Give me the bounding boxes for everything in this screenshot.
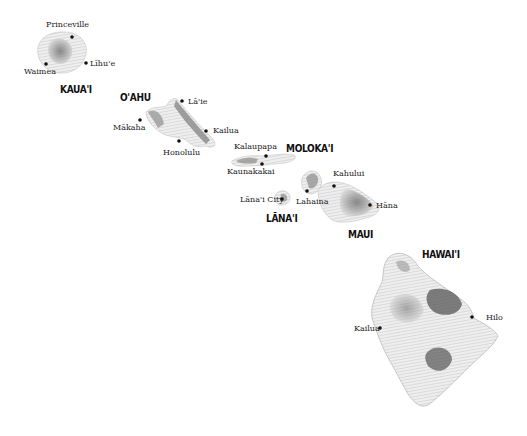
island-label-lanai: LĀNA'I — [266, 212, 298, 224]
town-dot-kalaupapa — [264, 154, 268, 158]
town-label-hilo: Hilo — [486, 313, 503, 322]
town-label-hana: Hāna — [376, 201, 398, 210]
town-dot-kahului — [332, 184, 336, 188]
town-dot-laie — [180, 99, 184, 103]
town-label-kahului: Kahului — [333, 169, 365, 178]
town-dot-hana — [368, 203, 372, 207]
town-label-lihue: Līhu'e — [90, 59, 115, 68]
town-label-makaha: Mākaha — [113, 123, 146, 132]
island-hawaii: Kailua Hilo HAWAI'I — [354, 249, 503, 406]
town-dot-lahaina — [305, 189, 309, 193]
town-label-kaunakakai: Kaunakakai — [227, 167, 275, 176]
town-label-waimea: Waimea — [24, 67, 56, 76]
island-oahu: Lā'ie Mākaha Kailua Honolulu O'AHU — [113, 92, 239, 157]
town-dot-honolulu — [177, 139, 181, 143]
town-dot-kaunakakai — [260, 162, 264, 166]
island-label-kauai: KAUA'I — [60, 84, 92, 95]
town-dot-princeville — [70, 35, 74, 39]
town-label-kalaupapa: Kalaupapa — [234, 142, 277, 151]
town-dot-kailua-oahu — [204, 129, 208, 133]
town-dot-lihue — [84, 61, 88, 65]
island-label-molokai: MOLOKA'I — [286, 143, 333, 154]
town-dot-hilo — [470, 315, 474, 319]
town-dot-waimea — [44, 62, 48, 66]
island-hawaii-shape — [372, 253, 498, 406]
island-lanai: Lāna'i City LĀNA'I — [240, 191, 298, 224]
island-kauai: Princeville Waimea Līhu'e KAUA'I — [24, 20, 115, 95]
island-molokai: Kalaupapa Kaunakakai MOLOKA'I — [227, 142, 333, 176]
town-label-princeville: Princeville — [46, 20, 89, 29]
town-label-laie: Lā'ie — [188, 97, 208, 106]
hawaii-map: Princeville Waimea Līhu'e KAUA'I Lā'ie M… — [0, 0, 527, 436]
town-label-kailua-oahu: Kailua — [213, 126, 239, 135]
town-label-honolulu: Honolulu — [163, 148, 200, 157]
town-label-lahaina: Lahaina — [296, 197, 329, 206]
island-label-hawaii: HAWAI'I — [422, 249, 460, 260]
town-label-lanai-city: Lāna'i City — [240, 195, 284, 204]
island-label-oahu: O'AHU — [120, 92, 151, 103]
town-label-kailua-kona: Kailua — [354, 324, 380, 333]
island-label-maui: MAUI — [348, 229, 373, 240]
island-maui: Kahului Lahaina Hāna MAUI — [296, 169, 398, 240]
town-dot-makaha — [138, 118, 142, 122]
